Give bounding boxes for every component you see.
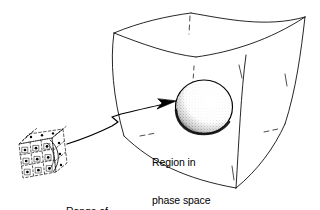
figure-root: Region in phase space Range of values fo… (0, 0, 320, 210)
label-region-in-phase-space: Region in phase space (152, 131, 210, 210)
cube-dot (26, 171, 29, 174)
sheet-seam-tick-lower (232, 166, 234, 180)
cube-dot (36, 158, 39, 161)
cube-dot (58, 142, 60, 144)
sheet-left-edge (112, 33, 124, 136)
label-range-line1: Range of (33, 205, 141, 210)
sheet-seam-tick-right (285, 74, 287, 86)
label-range-of-values-for-device: Range of values for device (33, 180, 141, 210)
cube-dot (25, 160, 28, 163)
dashed-device-value-cube (19, 127, 67, 179)
arrow-head (157, 99, 176, 109)
cube-dot (46, 145, 49, 148)
sheet-top-right-inner-edge (196, 17, 305, 57)
cube-dot (60, 164, 62, 166)
sheet-top-right-edge (191, 13, 305, 22)
cube-dot (52, 132, 54, 134)
cube-right-face (52, 129, 67, 172)
cube-dot (35, 147, 38, 150)
stippled-region-sphere (176, 80, 233, 134)
cube-dot (37, 169, 40, 172)
arrow-shaft (67, 105, 160, 144)
cube-dot (24, 149, 27, 152)
sheet-top-left-edge (114, 13, 191, 33)
label-region-line2: phase space (152, 194, 210, 207)
label-region-line1: Region in (152, 156, 210, 169)
sheet-top-left-inner-edge (114, 33, 196, 57)
sheet-right-edge (285, 17, 305, 124)
sheet-dashed-right-crease (264, 129, 278, 132)
sheet-dashed-center-crease-lower (193, 66, 194, 82)
sheet-dashed-center-crease (189, 16, 190, 34)
cube-dot (30, 136, 32, 138)
sheet-bottom-right-edge (236, 124, 285, 188)
sheet-seam-tick-upper (239, 65, 242, 78)
cube-dot (41, 134, 43, 136)
cube-dot (47, 156, 50, 159)
cube-dot (59, 153, 61, 155)
